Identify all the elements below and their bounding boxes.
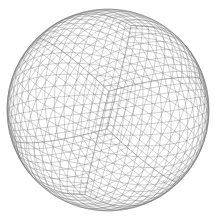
sphere-mesh xyxy=(7,9,209,211)
mesh-lines xyxy=(7,9,209,211)
wireframe-sphere xyxy=(0,0,215,221)
